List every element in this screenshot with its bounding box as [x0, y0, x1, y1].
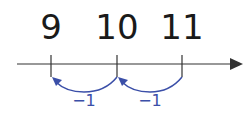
jump-label-10-to-9: −1	[72, 93, 96, 109]
number-label-10: 10	[95, 10, 138, 44]
jump-arc-11-to-10	[122, 77, 182, 92]
number-label-9: 9	[40, 10, 62, 44]
jump-arc-10-to-9	[56, 77, 117, 92]
jump-arrowhead-icon	[118, 77, 128, 86]
number-label-11: 11	[160, 10, 203, 44]
jump-label-11-to-10: −1	[138, 93, 162, 109]
jump-arrowhead-icon	[52, 77, 62, 86]
axis-arrow-icon	[230, 58, 243, 70]
